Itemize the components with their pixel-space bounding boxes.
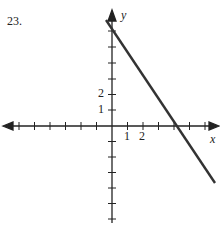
x-axis	[3, 122, 219, 130]
graphed-line	[106, 20, 215, 183]
coordinate-plane	[0, 0, 220, 225]
y-axis-label: y	[121, 8, 126, 23]
x-axis-left-arrow	[3, 122, 13, 130]
x-axis-label: x	[210, 132, 215, 147]
x-tick-label-2: 2	[139, 129, 145, 144]
x-axis-right-arrow	[209, 122, 219, 130]
y-tick-label-2: 2	[98, 86, 104, 101]
y-axis	[108, 10, 116, 223]
y-tick-label-1: 1	[98, 102, 104, 117]
y-axis-up-arrow	[108, 10, 116, 21]
x-tick-label-1: 1	[124, 129, 130, 144]
